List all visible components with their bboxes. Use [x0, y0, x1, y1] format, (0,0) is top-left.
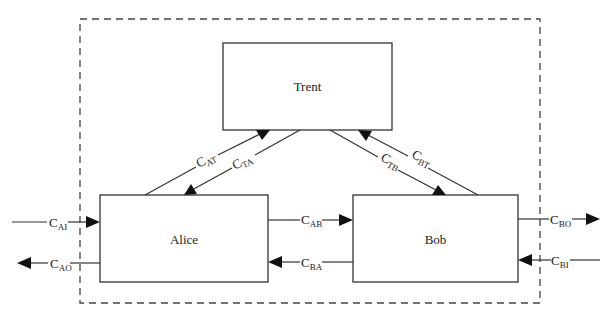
- bob-label: Bob: [425, 232, 447, 247]
- arrowhead-icon: [184, 184, 197, 195]
- trent-label: Trent: [294, 79, 322, 94]
- arrowhead-icon: [432, 185, 446, 195]
- channel-diagram: Trent Alice Bob CAI CAO CAT: [0, 0, 615, 319]
- c-ai-sub: AI: [58, 222, 68, 232]
- c-ao-sub: AO: [59, 263, 72, 273]
- edge-c-bt: CBT: [358, 130, 478, 195]
- svg-text:CBT: CBT: [409, 146, 435, 171]
- c-bo-base: C: [550, 212, 559, 227]
- c-ab-base: C: [301, 212, 310, 227]
- c-ai-base: C: [49, 215, 58, 230]
- node-alice: Alice: [100, 195, 268, 282]
- edge-c-ab: CAB: [268, 212, 353, 229]
- svg-text:CBA: CBA: [301, 255, 323, 272]
- arrowhead-icon: [268, 256, 282, 268]
- c-bo-sub: BO: [559, 219, 572, 229]
- edge-c-ba: CBA: [268, 255, 353, 272]
- c-ba-base: C: [301, 255, 310, 270]
- c-bi-base: C: [551, 253, 560, 268]
- svg-text:CBO: CBO: [550, 212, 572, 229]
- c-bi-sub: BI: [560, 260, 569, 270]
- edge-c-ai: CAI: [12, 215, 100, 232]
- arrowhead-icon: [586, 213, 600, 225]
- node-bob: Bob: [353, 195, 518, 282]
- svg-text:CBI: CBI: [551, 253, 569, 270]
- svg-text:CAO: CAO: [50, 256, 72, 273]
- alice-label: Alice: [170, 232, 198, 247]
- edge-c-ao: CAO: [17, 256, 100, 273]
- arrowhead-icon: [86, 216, 100, 228]
- node-trent: Trent: [223, 43, 392, 130]
- arrowhead-icon: [518, 254, 532, 266]
- svg-text:CAI: CAI: [49, 215, 67, 232]
- svg-text:CAB: CAB: [301, 212, 322, 229]
- svg-text:CAT: CAT: [193, 148, 219, 172]
- arrowhead-icon: [17, 257, 31, 269]
- edge-c-bo: CBO: [518, 212, 600, 229]
- edge-c-bi: CBI: [518, 253, 600, 270]
- c-ao-base: C: [50, 256, 59, 271]
- arrowhead-icon: [339, 214, 353, 226]
- c-ba-sub: BA: [310, 262, 323, 272]
- svg-text:CTA: CTA: [229, 150, 255, 175]
- c-ab-sub: AB: [310, 219, 323, 229]
